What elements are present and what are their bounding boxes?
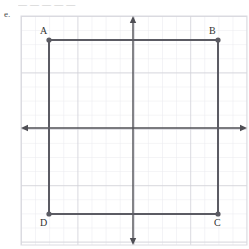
- vertex-point-c: [215, 211, 220, 216]
- vertex-label-a: A: [40, 26, 47, 36]
- vertex-label-c: C: [214, 218, 221, 228]
- vertex-point-d: [46, 211, 51, 216]
- coordinate-plane: [0, 0, 249, 249]
- vertex-label-b: B: [209, 26, 216, 36]
- vertex-point-a: [46, 37, 51, 42]
- vertex-label-d: D: [40, 218, 47, 228]
- vertex-point-b: [215, 37, 220, 42]
- worksheet-figure: — — — — — e.: [0, 0, 249, 249]
- grid-major-lines: [21, 16, 247, 245]
